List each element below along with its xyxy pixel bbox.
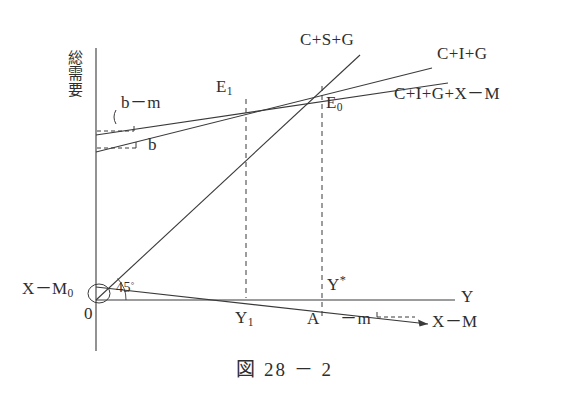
- point-label-y1-subscript: 1: [248, 316, 254, 329]
- curve-label-c-i-g: C+I+G: [437, 45, 487, 62]
- point-label-a: A: [307, 310, 320, 327]
- curve-label-c-i-g-x-m: C+I+G+X－M: [394, 85, 500, 102]
- point-label-e1-subscript: 1: [227, 85, 233, 98]
- point-label-y-star-superscript: *: [340, 273, 346, 287]
- slope-marker-minus-m: [377, 312, 415, 317]
- point-label-y-star: Y*: [327, 274, 346, 293]
- slope-label-minus-m: －m: [340, 310, 371, 327]
- angle-value: 45: [116, 280, 131, 295]
- point-label-e0-subscript: 0: [337, 101, 343, 114]
- point-label-e1: E1: [216, 78, 233, 97]
- x-axis-label: Y: [461, 288, 474, 305]
- degree-symbol: °: [131, 280, 135, 290]
- paren-mark-b-minus-m: [114, 110, 116, 124]
- figure-caption: 図 28 － 2: [0, 360, 569, 379]
- point-label-y-star-base: Y: [327, 275, 340, 294]
- point-label-e1-base: E: [216, 77, 227, 96]
- slope-label-b: b: [148, 136, 157, 153]
- curve-x-m: [96, 287, 428, 324]
- figure-container: 総需要 C+S+G C+I+G C+I+G+X－M X－M E1 E0 Y1 Y…: [0, 0, 569, 411]
- curve-label-c-s-g: C+S+G: [300, 31, 354, 48]
- point-label-e0-base: E: [326, 93, 337, 112]
- x-m-arrowhead: [418, 320, 428, 327]
- point-label-x-m0: X－M0: [22, 280, 73, 299]
- y-axis-title: 総需要: [66, 50, 82, 98]
- point-label-y1-base: Y: [235, 308, 248, 327]
- angle-label-45: 45°: [116, 281, 135, 295]
- point-label-x-m0-base: X－M: [22, 279, 68, 298]
- point-label-x-m0-subscript: 0: [68, 287, 74, 300]
- point-label-y1: Y1: [235, 309, 253, 328]
- origin-label: 0: [84, 305, 93, 322]
- slope-label-b-minus-m: b－m: [121, 94, 161, 111]
- curve-label-x-m: X－M: [432, 313, 478, 330]
- point-label-e0: E0: [326, 94, 343, 113]
